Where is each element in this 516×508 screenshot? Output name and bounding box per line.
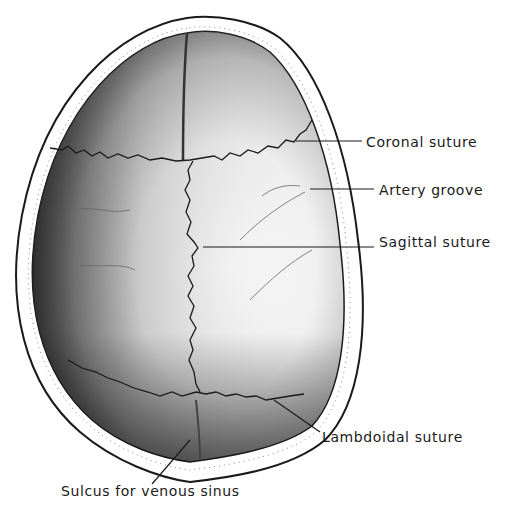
label-sulcus-venous-sinus: Sulcus for venous sinus [61,483,240,499]
skull-cap-diagram: Coronal suture Artery groove Sagittal su… [0,0,516,508]
label-artery-groove: Artery groove [379,182,483,198]
label-sagittal-suture: Sagittal suture [379,234,491,250]
label-lambdoidal-suture: Lambdoidal suture [322,429,463,445]
label-coronal-suture: Coronal suture [366,134,477,150]
